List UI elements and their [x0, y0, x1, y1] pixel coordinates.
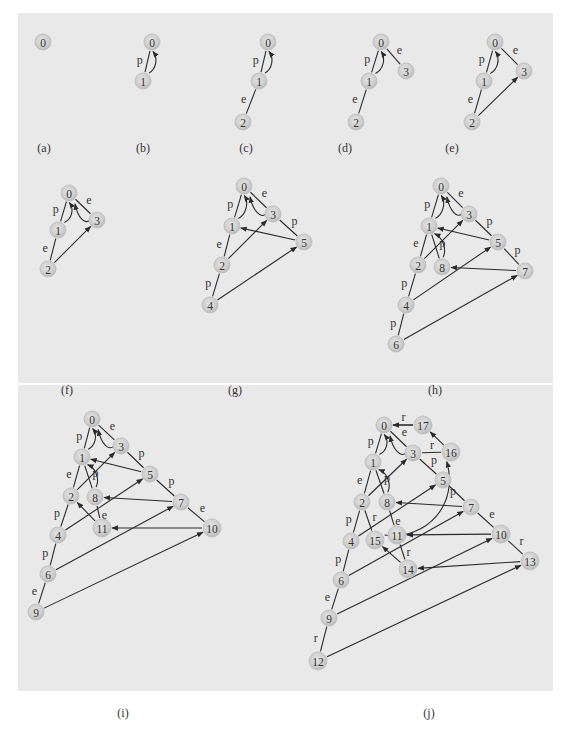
edge-label-2-1: e	[352, 92, 357, 106]
edge-3-to-16	[422, 452, 441, 453]
node-14: 14	[399, 560, 417, 578]
node-6: 6	[388, 336, 404, 352]
node-2: 2	[40, 261, 56, 277]
node-label: 6	[393, 339, 399, 351]
node-label: 3	[521, 66, 527, 78]
node-label: 1	[79, 452, 85, 464]
node-label: 0	[66, 188, 72, 200]
edge-label-2-1: e	[217, 237, 222, 251]
node-3: 3	[89, 212, 105, 228]
edge-label-1-0: p	[253, 53, 259, 67]
node-label: 0	[438, 181, 444, 193]
node-12: 12	[309, 652, 327, 670]
node-label: 5	[147, 469, 153, 481]
panel-caption-c: (c)	[239, 141, 252, 155]
panel-caption-d: (d)	[338, 141, 352, 155]
node-0: 0	[84, 411, 100, 427]
edge-label-1-0: p	[137, 53, 143, 67]
node-label: 0	[241, 181, 247, 193]
node-16: 16	[442, 443, 460, 461]
edge-label-6-4: p	[42, 546, 48, 560]
node-label: 3	[403, 66, 409, 78]
edge-label-9-6: e	[32, 584, 37, 598]
edge-label-0-17: r	[402, 410, 406, 424]
node-6: 6	[333, 572, 349, 588]
node-6: 6	[40, 566, 56, 582]
node-label: 8	[439, 262, 445, 274]
node-2: 2	[214, 257, 230, 273]
node-label: 0	[381, 420, 387, 432]
node-label: 0	[89, 414, 95, 426]
node-label: 2	[240, 117, 246, 129]
node-3: 3	[265, 206, 281, 222]
node-label: 3	[118, 441, 124, 453]
panel-caption-h: (h)	[428, 383, 442, 397]
panel-caption-i: (i)	[117, 706, 128, 720]
edge-label-12-9: r	[314, 631, 318, 645]
node-10: 10	[203, 519, 221, 537]
node-0: 0	[487, 34, 503, 50]
edge-label-4-2: p	[54, 506, 60, 520]
edge-label-2-15: r	[373, 510, 377, 524]
node-1: 1	[251, 73, 267, 89]
edge-label-4-2: p	[205, 276, 211, 290]
edge-label-15-16: p	[450, 484, 456, 498]
edge-label-4-2: p	[401, 276, 407, 290]
node-0: 0	[236, 178, 252, 194]
node-label: 3	[270, 209, 276, 221]
node-label: 3	[466, 209, 472, 221]
node-label: 15	[369, 535, 381, 547]
node-label: 2	[415, 260, 421, 272]
edge-label-0-3: e	[110, 419, 115, 433]
edge-label-8-11: e	[395, 514, 400, 528]
node-label: 0	[492, 37, 498, 49]
node-label: 2	[469, 117, 475, 129]
edge-label-3-5: p	[431, 453, 437, 467]
node-5: 5	[142, 466, 158, 482]
panel-caption-e: (e)	[445, 141, 458, 155]
node-label: 7	[522, 266, 528, 278]
node-label: 1	[256, 76, 262, 88]
node-label: 4	[207, 300, 213, 312]
node-label: 0	[378, 37, 384, 49]
node-9: 9	[28, 604, 44, 620]
node-4: 4	[343, 533, 359, 549]
node-3: 3	[113, 438, 129, 454]
node-5: 5	[490, 234, 506, 250]
node-5: 5	[296, 234, 312, 250]
node-label: 11	[391, 530, 402, 542]
edge-label-10-13: r	[520, 534, 524, 548]
edge-label-1-0: p	[227, 197, 233, 211]
node-1: 1	[50, 222, 66, 238]
node-label: 10	[495, 529, 507, 541]
node-1: 1	[135, 73, 151, 89]
node-label: 6	[338, 575, 344, 587]
edge-label-0-3: e	[86, 193, 91, 207]
node-label: 0	[40, 37, 46, 49]
edge-label-4-2: p	[346, 512, 352, 526]
node-0: 0	[144, 34, 160, 50]
node-8: 8	[434, 259, 450, 275]
node-label: 2	[68, 491, 74, 503]
edge-label-0-3: e	[262, 186, 267, 200]
node-0: 0	[433, 178, 449, 194]
node-label: 2	[359, 497, 365, 509]
edge-label-5-7: p	[169, 474, 175, 488]
node-11: 11	[388, 526, 406, 544]
node-label: 1	[55, 225, 61, 237]
node-4: 4	[398, 297, 414, 313]
node-label: 9	[326, 613, 332, 625]
node-label: 1	[426, 221, 432, 233]
edge-label-1-0: p	[76, 429, 82, 443]
edge-label-2-1: e	[413, 236, 418, 250]
panel-caption-a: (a)	[37, 141, 50, 155]
node-label: 13	[524, 556, 536, 568]
node-label: 1	[481, 76, 487, 88]
node-1: 1	[361, 73, 377, 89]
node-3: 3	[398, 63, 414, 79]
edge-label-6-4: p	[335, 552, 341, 566]
node-4: 4	[50, 527, 66, 543]
node-15: 15	[366, 531, 384, 549]
node-0: 0	[260, 34, 276, 50]
node-2: 2	[354, 494, 370, 510]
